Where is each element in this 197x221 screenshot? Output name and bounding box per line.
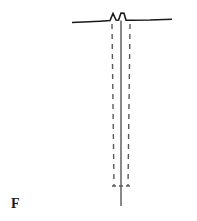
figure-container: F: [0, 0, 197, 221]
figure-background: [0, 0, 197, 221]
technical-figure-drawing: [0, 0, 197, 221]
figure-label: F: [11, 197, 20, 211]
